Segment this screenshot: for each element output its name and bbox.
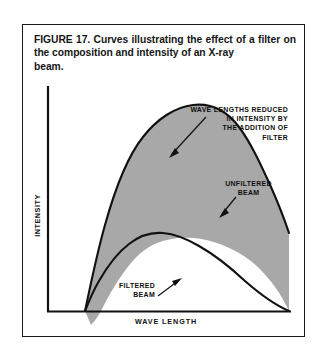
annotation-filtered-line-2: BEAM — [82, 290, 155, 299]
annotation-reduced-line-2: IN INTENSITY BY — [173, 114, 288, 123]
y-axis-label: INTENSITY — [33, 185, 42, 247]
annotation-reduced-line-4: FILTER — [173, 133, 288, 142]
annotation-unfiltered-line-1: UNFILTERED — [209, 179, 288, 188]
annotation-reduced-line-1: WAVE LENGTHS REDUCED — [173, 105, 288, 114]
annotation-reduced-wavelengths: WAVE LENGTHS REDUCED IN INTENSITY BY THE… — [173, 105, 288, 142]
chart-plot-area: INTENSITY WAVE LENGTH WAVE LENGTHS REDUC… — [23, 25, 306, 338]
figure-panel: FIGURE 17. Curves illustrating the effec… — [22, 24, 305, 337]
annotation-unfiltered-line-2: BEAM — [209, 188, 288, 197]
x-axis-label: WAVE LENGTH — [91, 317, 241, 326]
annotation-filtered-line-1: FILTERED — [82, 281, 155, 290]
annotation-unfiltered-beam: UNFILTERED BEAM — [209, 179, 288, 197]
annotation-filtered-beam: FILTERED BEAM — [82, 281, 155, 299]
annotation-reduced-line-3: THE ADDITION OF — [173, 123, 288, 132]
